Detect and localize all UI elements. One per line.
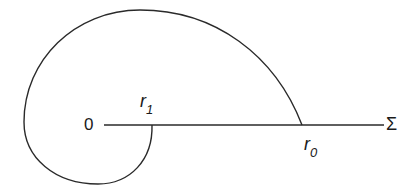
spiral-curve [24, 10, 302, 184]
diagram-canvas [0, 0, 413, 192]
r1-label: r1 [140, 92, 153, 114]
r0-label: r0 [304, 135, 317, 157]
r1-subscript: 1 [146, 102, 153, 117]
r0-subscript: 0 [310, 145, 317, 160]
sigma-label: Σ [386, 115, 397, 133]
spiral-diagram: 0 Σ r1 r0 [0, 0, 413, 192]
origin-label: 0 [84, 116, 93, 133]
